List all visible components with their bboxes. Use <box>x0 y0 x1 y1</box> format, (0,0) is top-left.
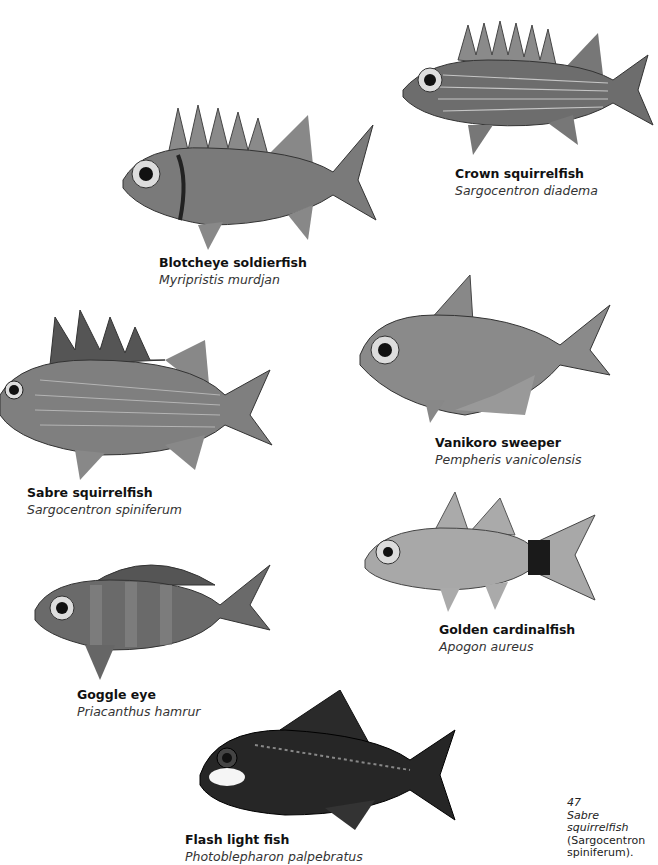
caption-blotcheye-soldierfish: Blotcheye soldierfish Myripristis murdja… <box>159 254 307 288</box>
common-name: Flash light fish <box>185 831 363 848</box>
plate-number: 47 <box>567 797 658 810</box>
common-name: Golden cardinalfish <box>439 621 575 638</box>
plate-common-name: Sabre squirrelfish <box>567 810 658 835</box>
common-name: Crown squirrelfish <box>455 165 598 182</box>
latin-name: Pempheris vanicolensis <box>435 451 582 468</box>
latin-name: Sargocentron spiniferum <box>27 501 182 518</box>
fish-illustration-flash-light-fish <box>195 690 460 830</box>
caption-goggle-eye: Goggle eye Priacanthus hamrur <box>77 686 200 720</box>
caption-vanikoro-sweeper: Vanikoro sweeper Pempheris vanicolensis <box>435 434 582 468</box>
caption-crown-squirrelfish: Crown squirrelfish Sargocentron diadema <box>455 165 598 199</box>
caption-sabre-squirrelfish: Sabre squirrelfish Sargocentron spinifer… <box>27 484 182 518</box>
fish-illustration-blotcheye-soldierfish <box>118 100 380 255</box>
caption-golden-cardinalfish: Golden cardinalfish Apogon aureus <box>439 621 575 655</box>
plate-caption: 47 Sabre squirrelfish (Sargocentron spin… <box>567 797 658 860</box>
common-name: Blotcheye soldierfish <box>159 254 307 271</box>
common-name: Goggle eye <box>77 686 200 703</box>
common-name: Sabre squirrelfish <box>27 484 182 501</box>
latin-name: Priacanthus hamrur <box>77 703 200 720</box>
fish-illustration-sabre-squirrelfish <box>0 305 275 480</box>
caption-flash-light-fish: Flash light fish Photoblepharon palpebra… <box>185 831 363 865</box>
plate-latin-line-2: spiniferum). <box>567 847 658 860</box>
common-name: Vanikoro sweeper <box>435 434 582 451</box>
latin-name: Myripristis murdjan <box>159 271 307 288</box>
fish-illustration-golden-cardinalfish <box>360 490 600 615</box>
fish-illustration-vanikoro-sweeper <box>355 275 615 425</box>
fish-illustration-crown-squirrelfish <box>398 15 656 160</box>
latin-name: Apogon aureus <box>439 638 575 655</box>
latin-name: Photoblepharon palpebratus <box>185 848 363 865</box>
latin-name: Sargocentron diadema <box>455 182 598 199</box>
fish-illustration-goggle-eye <box>30 550 275 685</box>
